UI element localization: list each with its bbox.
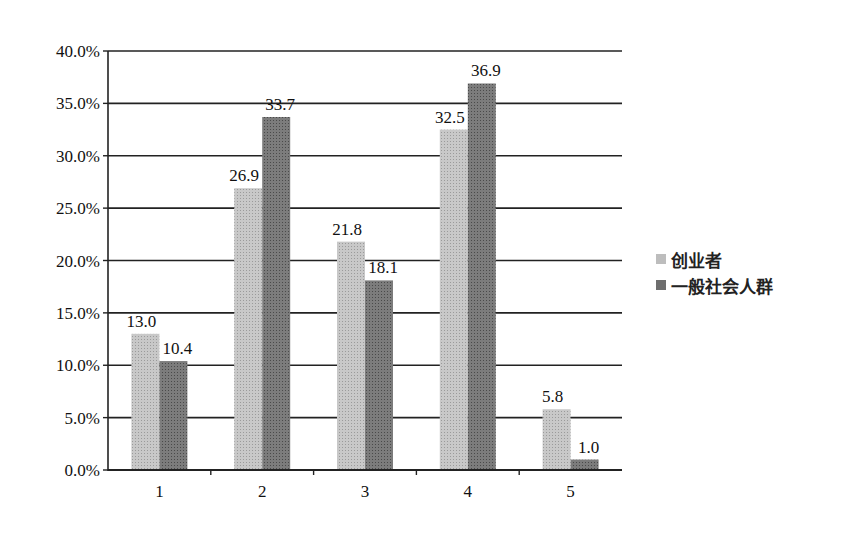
bars: 13.010.426.933.721.818.132.536.95.81.0 xyxy=(127,61,600,470)
x-axis: 12345 xyxy=(108,470,622,501)
data-label: 32.5 xyxy=(435,108,465,127)
bar xyxy=(468,83,496,470)
bar xyxy=(337,242,365,470)
legend-label: 一般社会人群 xyxy=(671,273,773,298)
data-label: 18.1 xyxy=(368,258,398,277)
y-tick-label: 15.0% xyxy=(56,304,100,323)
data-label: 21.8 xyxy=(332,220,362,239)
data-label: 26.9 xyxy=(229,166,259,185)
y-tick-label: 30.0% xyxy=(56,147,100,166)
legend: 创业者 一般社会人群 xyxy=(656,246,773,298)
data-label: 5.8 xyxy=(542,387,563,406)
legend-item-general-public: 一般社会人群 xyxy=(656,272,773,298)
x-tick-label: 2 xyxy=(258,482,267,501)
legend-label: 创业者 xyxy=(671,247,722,272)
bar xyxy=(262,117,290,470)
bar xyxy=(365,280,393,470)
legend-item-entrepreneurs: 创业者 xyxy=(656,246,773,272)
y-tick-label: 10.0% xyxy=(56,356,100,375)
bar xyxy=(543,409,571,470)
data-label: 13.0 xyxy=(127,312,157,331)
bar xyxy=(234,188,262,470)
data-label: 33.7 xyxy=(265,95,295,114)
legend-swatch-dark xyxy=(656,280,666,290)
y-tick-label: 40.0% xyxy=(56,42,100,61)
y-tick-label: 35.0% xyxy=(56,94,100,113)
x-tick-label: 4 xyxy=(464,482,473,501)
x-tick-label: 5 xyxy=(566,482,575,501)
data-label: 10.4 xyxy=(163,339,193,358)
bar xyxy=(131,334,159,470)
x-tick-label: 1 xyxy=(155,482,164,501)
data-label: 1.0 xyxy=(578,438,599,457)
bar xyxy=(440,130,468,470)
y-tick-label: 0.0% xyxy=(65,461,100,480)
bar xyxy=(159,361,187,470)
y-axis: 0.0%5.0%10.0%15.0%20.0%25.0%30.0%35.0%40… xyxy=(56,42,108,480)
bar xyxy=(571,460,599,470)
y-tick-label: 5.0% xyxy=(65,409,100,428)
legend-swatch-light xyxy=(656,254,666,264)
y-tick-label: 20.0% xyxy=(56,252,100,271)
data-label: 36.9 xyxy=(471,61,501,80)
y-tick-label: 25.0% xyxy=(56,199,100,218)
x-tick-label: 3 xyxy=(361,482,370,501)
